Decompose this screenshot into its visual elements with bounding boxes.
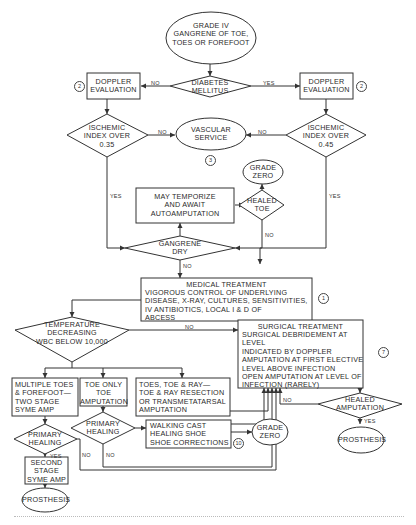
grade-zero-bottom-text: GRADE ZERO <box>252 424 288 441</box>
temporize-text: MAY TEMPORIZE AND AWAIT AUTOAMPUTATION <box>136 193 234 218</box>
temperature-text: TEMPERATURE DECREASING WBC BELOW 10,000 <box>22 321 122 346</box>
surgical-text: SURGICAL DEBRIDEMENT AT LEVEL INDICATED … <box>242 331 366 390</box>
edge-label-no: NO <box>283 397 292 403</box>
ref-marker: 3 <box>205 155 216 166</box>
ref-marker: 7 <box>378 347 389 358</box>
toe-only-text: TOE ONLY TOE AMPUTATION <box>80 381 127 406</box>
medical-text: VIGOROUS CONTROL OF UNDERLYING DISEASE, … <box>145 289 315 323</box>
edge-label-no: NO <box>183 263 192 269</box>
diabetes-text: DIABETES MELLITUS <box>180 79 240 96</box>
edge-label-no: NO <box>106 452 115 458</box>
toes-ray-text: TOES, TOE & RAY— TOE & RAY RESECTION OR … <box>139 381 231 415</box>
vascular-text: VASCULAR SERVICE <box>181 126 241 143</box>
edge-label-yes: YES <box>110 193 122 199</box>
ref-marker: 2 <box>74 81 85 92</box>
gangrene-dry-text: GANGRENE DRY <box>145 240 215 257</box>
healed-amputation-text: HEALED AMPUTATION <box>325 396 395 413</box>
edge-label-no: NO <box>185 324 194 330</box>
edge-label-yes: YES <box>364 418 376 424</box>
edge-label-no: NO <box>151 80 160 86</box>
multiple-toes-text: MULTIPLE TOES & FOREFOOT— TWO STAGE SYME… <box>15 381 79 415</box>
ischemic-right-text: ISCHEMIC INDEX OVER 0.45 <box>296 124 356 149</box>
healed-toe-text: HEALED TOE <box>242 197 282 214</box>
faint-caption-line <box>14 516 404 519</box>
edge-label-yes: YES <box>329 193 341 199</box>
edge-label-no: NO <box>265 232 274 238</box>
edge-label-yes: YES <box>50 453 62 459</box>
ref-marker: 10 <box>233 438 244 449</box>
ref-marker: 2 <box>356 81 367 92</box>
edge-label-no: NO <box>258 129 267 135</box>
prosthesis-left-text: PROSTHESIS <box>22 496 68 504</box>
second-stage-text: SECOND STAGE SYME AMP <box>25 459 68 484</box>
primary-healing-left-text: PRIMARY HEALING <box>20 431 70 448</box>
primary-healing-mid-text: PRIMARY HEALING <box>78 420 128 437</box>
start-text: GRADE IV GANGRENE OF TOE, TOES OR FOREFO… <box>166 22 256 47</box>
edge-label-yes: YES <box>263 80 275 86</box>
ischemic-left-text: ISCHEMIC INDEX OVER 0.35 <box>77 124 137 149</box>
doppler-left-text: DOPPLER EVALUATION <box>87 78 140 95</box>
ref-marker: 1 <box>318 293 329 304</box>
edge-label-no: NO <box>158 129 167 135</box>
walking-cast-text: WALKING CAST HEALING SHOE SHOE CORRECTIO… <box>150 422 230 447</box>
grade-zero-top-text: GRADE ZERO <box>243 164 283 181</box>
prosthesis-right-text: PROSTHESIS <box>338 436 384 444</box>
doppler-right-text: DOPPLER EVALUATION <box>300 78 353 95</box>
edge-label-no: NO <box>82 452 91 458</box>
